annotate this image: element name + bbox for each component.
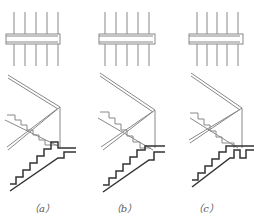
panel-a-drawing xyxy=(5,12,76,191)
panel-a-label: （a） xyxy=(22,200,62,215)
panel-b-drawing xyxy=(98,12,165,192)
panel-c-drawing xyxy=(189,12,254,187)
stair-diagrams xyxy=(0,0,256,216)
panel-c-label: （c） xyxy=(186,200,226,215)
panel-b-label: （b） xyxy=(104,200,144,215)
